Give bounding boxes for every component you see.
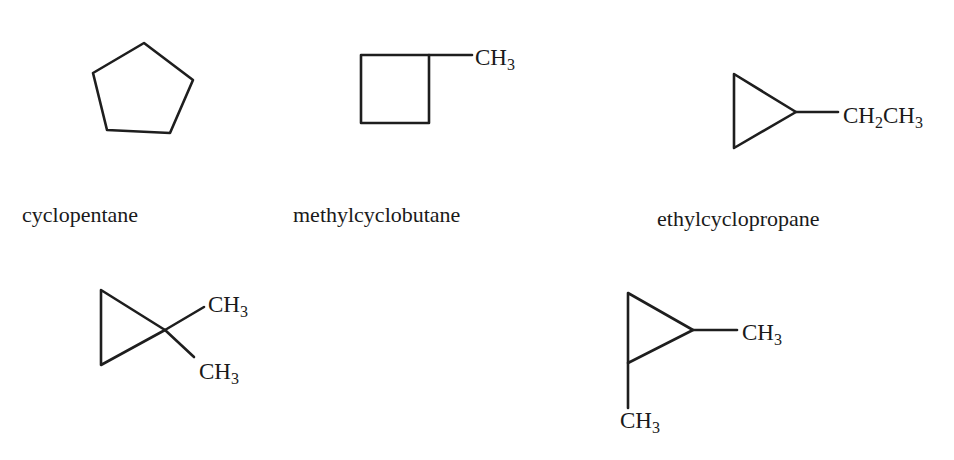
label-main: CH: [742, 320, 774, 345]
label-main: CH: [843, 103, 875, 128]
methyl-label-bottom: CH3: [620, 409, 660, 432]
methyl-label-upper: CH3: [208, 293, 248, 316]
compound-name-cyclopentane: cyclopentane: [22, 204, 138, 226]
label-subscript: 3: [507, 56, 515, 73]
methyl-label-lower: CH3: [199, 360, 239, 383]
methyl-bond-lower: [165, 330, 194, 357]
label-main: CH: [620, 408, 652, 433]
pentagon-ring: [93, 43, 193, 133]
methyl-label-right: CH3: [742, 321, 782, 344]
compound-name-methylcyclobutane: methylcyclobutane: [293, 204, 460, 226]
label-main: CH: [199, 359, 231, 384]
dimethylcyclopropane-12-structure: [628, 293, 737, 408]
ethylcyclopropane-structure: [734, 74, 838, 148]
ethyl-label: CH2CH3: [843, 104, 923, 127]
cyclopentane-structure: [93, 43, 193, 133]
label-subscript: 3: [240, 303, 248, 320]
label-main: CH: [883, 103, 915, 128]
methyl-bond-upper: [165, 307, 204, 330]
square-ring: [361, 55, 429, 123]
label-subscript: 2: [875, 114, 883, 131]
compound-name-ethylcyclopropane: ethylcyclopropane: [657, 208, 820, 230]
triangle-ring: [101, 290, 165, 365]
label-subscript: 3: [915, 114, 923, 131]
methylcyclobutane-structure: [361, 55, 472, 123]
dimethylcyclopropane-11-structure: [101, 290, 204, 365]
label-subscript: 3: [231, 370, 239, 387]
label-subscript: 3: [774, 331, 782, 348]
label-subscript: 3: [652, 419, 660, 436]
label-main: CH: [208, 292, 240, 317]
triangle-ring: [628, 293, 693, 363]
methyl-label: CH3: [475, 46, 515, 69]
label-main: CH: [475, 45, 507, 70]
triangle-ring: [734, 74, 796, 148]
